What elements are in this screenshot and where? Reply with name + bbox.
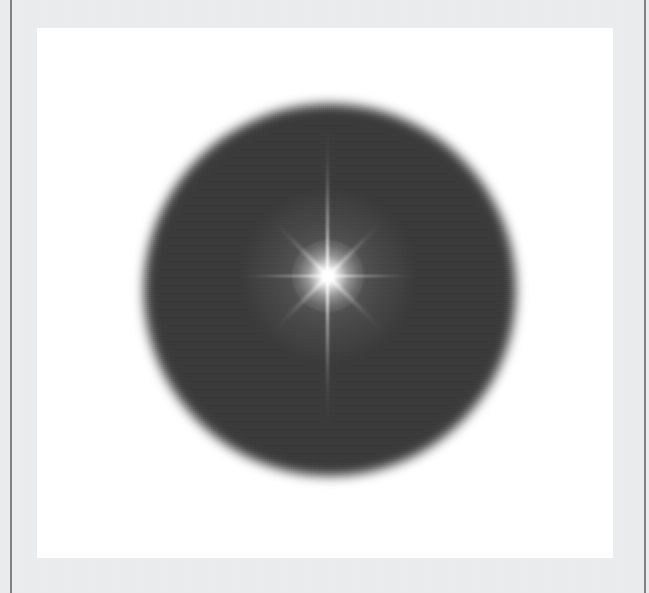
left-rule: [10, 0, 12, 593]
image-panel: [37, 28, 613, 558]
star-core: [292, 240, 364, 312]
viewport: [0, 0, 649, 593]
right-rule: [644, 0, 646, 593]
